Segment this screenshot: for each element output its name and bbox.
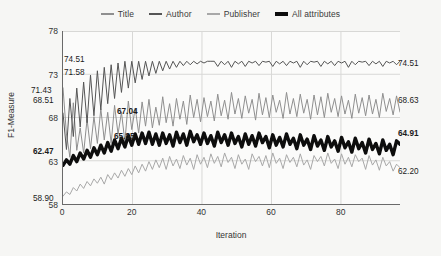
chart-legend: TitleAuthorPublisherAll attributes [0,9,441,19]
legend-item-title[interactable]: Title [101,9,134,19]
value-annotation: 62.20 [398,168,419,176]
series-line-publisher [63,153,400,196]
value-annotation: 65.85 [114,133,135,141]
y-axis-tick-label: 63 [49,157,58,167]
value-annotation: 68.63 [398,97,419,105]
legend-item-all-attributes[interactable]: All attributes [275,9,340,19]
legend-swatch-icon [149,13,162,15]
value-annotation: 67.04 [117,108,138,116]
chart-container: TitleAuthorPublisherAll attributes 58636… [0,0,441,256]
legend-label: Author [166,9,192,19]
legend-swatch-icon [207,13,220,15]
x-axis-tick-label: 80 [336,207,345,217]
y-axis-ticks: 5863687378 [30,31,58,205]
legend-label: Title [118,9,134,19]
y-axis-tick-label: 68 [49,113,58,123]
x-axis-ticks: 020406080 [62,207,400,221]
value-annotation: 71.43 [31,87,52,95]
x-axis-title: Iteration [62,230,400,240]
legend-swatch-icon [275,12,288,15]
x-axis-tick-label: 40 [197,207,206,217]
x-axis-tick-label: 60 [266,207,275,217]
value-annotation: 62.47 [33,148,54,156]
value-annotation: 74.51 [64,56,85,64]
y-axis-tick-label: 73 [49,70,58,80]
value-annotation: 68.51 [33,97,54,105]
x-axis-tick-label: 20 [127,207,136,217]
legend-label: Publisher [224,9,260,19]
value-annotation: 74.51 [398,60,419,68]
legend-item-author[interactable]: Author [149,9,192,19]
legend-item-publisher[interactable]: Publisher [207,9,260,19]
y-axis-title: F1-Measure [6,75,16,155]
legend-label: All attributes [292,9,340,19]
plot-area [62,31,400,205]
y-axis-tick-label: 78 [49,26,58,36]
legend-swatch-icon [101,13,114,15]
x-axis-tick-label: 0 [60,207,65,217]
value-annotation: 71.58 [64,69,85,77]
value-annotation: 58.90 [33,195,54,203]
value-annotation: 64.91 [398,130,419,138]
series-lines [63,31,400,204]
